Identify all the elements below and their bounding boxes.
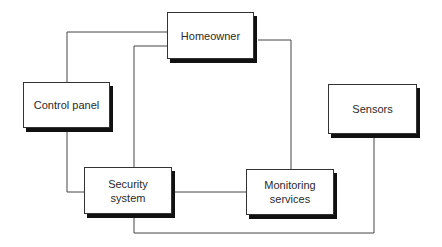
edge-homeowner-security-system — [134, 46, 167, 167]
edge-control-panel-security-system — [67, 131, 84, 192]
node-label: Sensors — [352, 102, 392, 116]
node-label: Security system — [108, 177, 148, 205]
node-sensors: Sensors — [328, 84, 417, 134]
node-label: Monitoring services — [264, 178, 315, 206]
edge-homeowner-control-panel — [67, 32, 167, 82]
node-homeowner: Homeowner — [167, 12, 254, 59]
node-label: Control panel — [34, 98, 99, 112]
node-security-system: Security system — [84, 167, 172, 214]
node-label: Homeowner — [181, 29, 240, 43]
node-monitoring-services: Monitoring services — [246, 169, 334, 215]
node-control-panel: Control panel — [23, 82, 110, 128]
edge-homeowner-monitoring-services — [258, 40, 291, 169]
